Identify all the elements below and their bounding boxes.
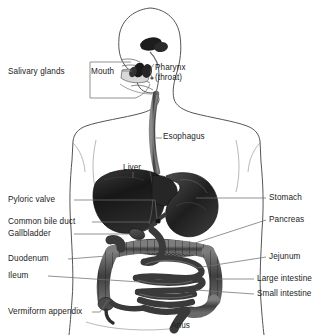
label-stomach: Stomach (269, 193, 302, 202)
label-gallbladder: Gallbladder (8, 229, 51, 238)
label-pharynx-line2: (throat) (155, 73, 182, 82)
vermiform-appendix-organ (106, 310, 113, 323)
pyloric-valve-organ (155, 218, 160, 223)
label-liver: Liver (123, 163, 141, 172)
label-common-bile-duct: Common bile duct (8, 217, 75, 226)
label-duodenum: Duodenum (8, 254, 49, 263)
esophagus-organ (152, 94, 158, 172)
label-anus: Anus (171, 321, 190, 330)
label-vermiform-appendix: Vermiform appendix (8, 307, 82, 316)
leader-ileum (48, 276, 140, 282)
label-pancreas: Pancreas (269, 215, 304, 224)
label-ileum: Ileum (8, 271, 28, 280)
label-pyloric-valve: Pyloric valve (8, 195, 55, 204)
label-salivary-glands: Salivary glands (8, 67, 65, 76)
anatomy-illustration (0, 0, 318, 335)
label-jejunum: Jejunum (269, 252, 301, 261)
label-pharynx-line1: Pharynx (155, 63, 186, 72)
digestive-system-figure: Salivary glands Mouth Pharynx (throat) E… (0, 0, 318, 335)
leader-small-intestine (196, 290, 254, 294)
label-large-intestine: Large intestine (257, 274, 312, 283)
liver-organ (93, 170, 177, 234)
label-esophagus: Esophagus (163, 132, 205, 141)
label-mouth: Mouth (91, 67, 114, 76)
label-small-intestine: Small intestine (257, 289, 311, 298)
label-pharynx: Pharynx (throat) (155, 63, 186, 82)
